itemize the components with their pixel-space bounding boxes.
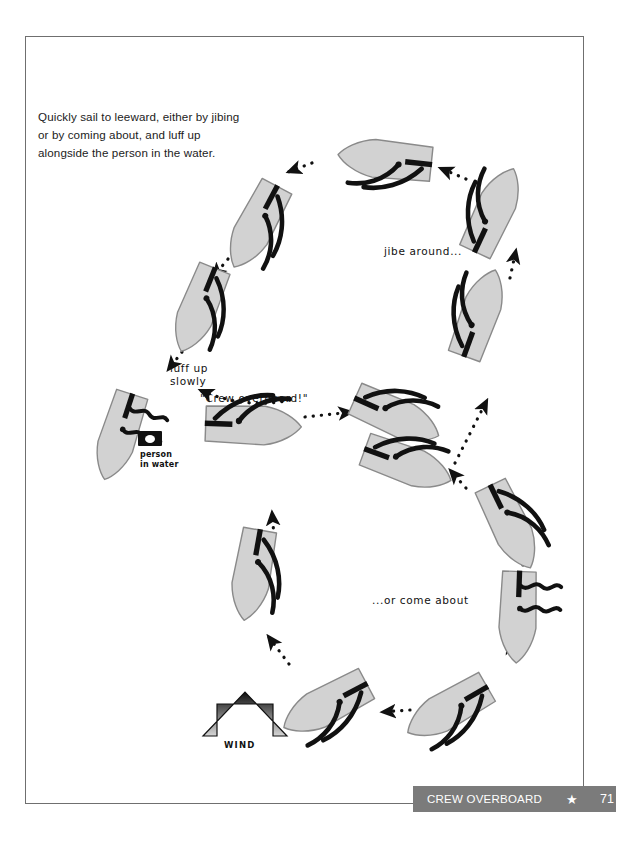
boat	[473, 472, 556, 576]
boat	[335, 136, 434, 194]
person-in-water-icon	[138, 431, 162, 446]
track-arrow	[455, 400, 487, 463]
boat-fleet	[87, 136, 561, 758]
boat	[436, 260, 512, 363]
track-arrow	[450, 470, 466, 488]
boat	[165, 261, 242, 362]
track-arrow	[440, 168, 466, 179]
track-arrow	[268, 636, 289, 664]
track-arrow	[305, 412, 352, 417]
footer-chapter-title: CREW OVERBOARD	[427, 793, 542, 805]
person-in-water-line2: in water	[140, 460, 179, 469]
star-icon: ★	[566, 793, 578, 806]
wind-arrow-icon	[203, 692, 287, 736]
person-in-water-line1: person	[140, 450, 172, 459]
annotation-crew-overboard: "Crew overboard!"	[200, 392, 308, 404]
track-arrow	[288, 163, 312, 172]
track-arrow	[382, 710, 410, 712]
annotation-wind: WIND	[224, 740, 255, 750]
annotation-person-in-water: person in water	[140, 450, 179, 469]
boat	[275, 666, 381, 753]
footer-page-number: 71	[600, 792, 614, 806]
boat	[399, 670, 503, 757]
annotation-luff-up-line2: slowly	[170, 375, 206, 387]
boat	[218, 177, 303, 281]
annotation-jibe-around: jibe around...	[384, 245, 462, 257]
annotation-or-come-about: ...or come about	[372, 594, 469, 606]
page-root: Quickly sail to leeward, either by jibin…	[0, 0, 628, 855]
annotation-luff-up-slowly: luff up slowly	[170, 362, 208, 388]
annotation-luff-up-line1: luff up	[170, 362, 208, 374]
boat	[226, 526, 289, 625]
intro-paragraph: Quickly sail to leeward, either by jibin…	[38, 108, 243, 163]
footer-chapter-bar: CREW OVERBOARD ★ 71	[413, 786, 616, 812]
boat-head-to-wind	[498, 570, 562, 664]
track-arrow	[510, 250, 516, 278]
